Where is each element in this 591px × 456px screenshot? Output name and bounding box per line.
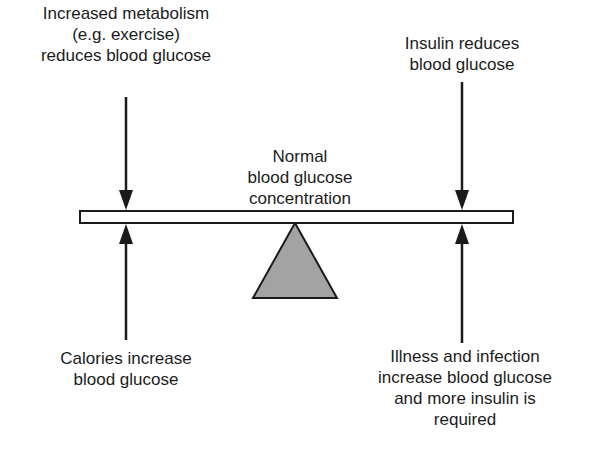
arrow-down-left-icon: [119, 97, 133, 210]
fulcrum-triangle: [253, 223, 337, 298]
seesaw-diagram: [0, 0, 591, 456]
arrow-up-left-icon: [119, 224, 133, 340]
balance-beam: [80, 211, 513, 223]
arrow-up-right-icon: [455, 224, 469, 343]
arrow-down-right-icon: [455, 82, 469, 210]
